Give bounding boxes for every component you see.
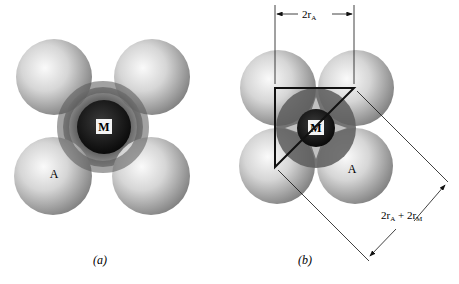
panel-b: M A 2rA 2rA + 2rM (b) [239,5,448,267]
caption-b: (b) [298,253,312,267]
dimension-arrow [370,229,396,256]
diagonal-dimension-label: 2rA + 2rM [381,209,423,223]
panel-a: M A (a) [14,39,190,267]
diagram-canvas: M A (a) M A 2rA 2rA + 2rM (b) [0,0,459,284]
anion-sphere [112,137,190,215]
center-label: M [98,120,109,134]
anion-label: A [50,167,59,181]
top-dimension-label: 2rA [302,8,316,22]
anion-label: A [348,162,357,176]
caption-a: (a) [93,253,107,267]
